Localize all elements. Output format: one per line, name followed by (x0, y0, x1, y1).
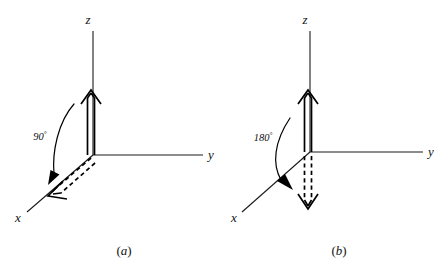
panel-a-angle-degree-symbol: ° (44, 130, 47, 138)
panel-b-caption-close: ) (342, 243, 346, 258)
panel-a-initial-vector-arrowhead (81, 90, 101, 104)
panel-b: z y x (230, 12, 434, 258)
panel-a-rotation-arc (48, 104, 74, 185)
panel-b-angle-value: 180 (254, 132, 271, 143)
panel-a-caption: (a) (116, 243, 131, 258)
panel-a-axis-z-label: z (84, 12, 90, 27)
figure-container: z y x (0, 0, 445, 267)
panel-a-rotation-arc-arrowhead (48, 170, 60, 185)
panel-b-caption: (b) (331, 243, 346, 258)
panel-b-rotated-vector (298, 156, 318, 209)
panel-a-rotated-vector-head-join-lower (53, 193, 61, 194)
panel-b-angle-label: 180° (254, 131, 273, 143)
panel-a-caption-close: ) (127, 243, 131, 258)
panel-b-axis-x-label: x (230, 210, 237, 225)
panel-b-initial-vector-arrowhead (298, 90, 318, 104)
panel-a: z y x (14, 12, 214, 258)
panel-a-axis-y-label: y (206, 147, 214, 162)
panel-b-rotation-arc-line (276, 118, 290, 180)
panel-a-angle-label: 90° (33, 130, 47, 142)
panel-b-angle-degree-symbol: ° (269, 131, 272, 139)
vector-rotation-figure: z y x (0, 0, 445, 267)
panel-a-rotation-arc-line (54, 104, 74, 174)
panel-a-axis-x-label: x (14, 210, 21, 225)
panel-b-axis-y-label: y (426, 144, 434, 159)
panel-b-rotated-vector-arrowhead (298, 194, 318, 209)
panel-b-axis-z-label: z (301, 12, 307, 27)
panel-b-initial-vector (298, 90, 318, 152)
panel-b-rotation-arc (276, 118, 293, 190)
panel-a-initial-vector (81, 90, 101, 155)
